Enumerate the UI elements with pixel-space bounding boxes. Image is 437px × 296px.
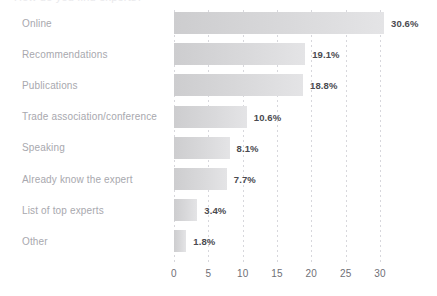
bar[interactable] xyxy=(174,12,384,34)
bar-value-label: 3.4% xyxy=(204,205,226,216)
bar-row: 10.6% xyxy=(174,106,380,128)
x-tick-label: 10 xyxy=(237,268,249,279)
x-tick-label: 0 xyxy=(171,268,177,279)
bar[interactable] xyxy=(174,74,303,96)
bar-value-label: 19.1% xyxy=(312,49,339,60)
bar-value-label: 7.7% xyxy=(234,174,256,185)
bar-value-label: 8.1% xyxy=(237,142,259,153)
x-axis: 051015202530 xyxy=(174,268,380,284)
bar-series: 30.6%19.1%18.8%10.6%8.1%7.7%3.4%1.8% xyxy=(174,10,380,262)
category-label: Online xyxy=(22,12,52,34)
category-label: Already know the expert xyxy=(22,168,133,190)
bar-chart: How do you find experts? OnlineRecommend… xyxy=(0,0,437,296)
x-tick-label: 20 xyxy=(306,268,318,279)
x-tick-label: 25 xyxy=(340,268,352,279)
gridline-30 xyxy=(380,10,381,262)
bar-row: 18.8% xyxy=(174,74,380,96)
x-tick-label: 5 xyxy=(205,268,211,279)
category-label: Publications xyxy=(22,74,78,96)
bar-value-label: 1.8% xyxy=(193,236,215,247)
bar-row: 1.8% xyxy=(174,230,380,252)
category-label: List of top experts xyxy=(22,199,104,221)
bar-value-label: 30.6% xyxy=(391,18,418,29)
bar-value-label: 10.6% xyxy=(254,111,281,122)
category-label: Recommendations xyxy=(22,43,108,65)
plot-area: 30.6%19.1%18.8%10.6%8.1%7.7%3.4%1.8% xyxy=(174,10,380,262)
bar-row: 7.7% xyxy=(174,168,380,190)
bar[interactable] xyxy=(174,137,230,159)
bar[interactable] xyxy=(174,168,227,190)
category-label: Trade association/conference xyxy=(22,106,157,128)
bar[interactable] xyxy=(174,199,197,221)
bar[interactable] xyxy=(174,106,247,128)
bar-row: 8.1% xyxy=(174,137,380,159)
category-axis: OnlineRecommendationsPublicationsTrade a… xyxy=(0,10,168,262)
bar[interactable] xyxy=(174,43,305,65)
bar[interactable] xyxy=(174,230,186,252)
clipped-top-text: How do you find experts? xyxy=(14,0,143,3)
bar-row: 3.4% xyxy=(174,199,380,221)
bar-row: 19.1% xyxy=(174,43,380,65)
category-label: Other xyxy=(22,230,48,252)
bar-value-label: 18.8% xyxy=(310,80,337,91)
x-tick-label: 15 xyxy=(271,268,283,279)
bar-row: 30.6% xyxy=(174,12,380,34)
category-label: Speaking xyxy=(22,137,65,159)
x-tick-label: 30 xyxy=(374,268,386,279)
